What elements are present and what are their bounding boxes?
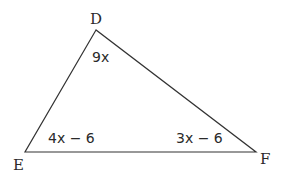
- triangle-diagram: D E F 9x 4x − 6 3x − 6: [0, 0, 284, 176]
- angle-label-f: 3x − 6: [176, 130, 223, 146]
- angle-label-e: 4x − 6: [48, 130, 95, 146]
- vertex-label-e: E: [13, 156, 24, 174]
- vertex-label-f: F: [260, 150, 270, 168]
- vertex-label-d: D: [90, 10, 102, 28]
- angle-label-d: 9x: [92, 49, 109, 65]
